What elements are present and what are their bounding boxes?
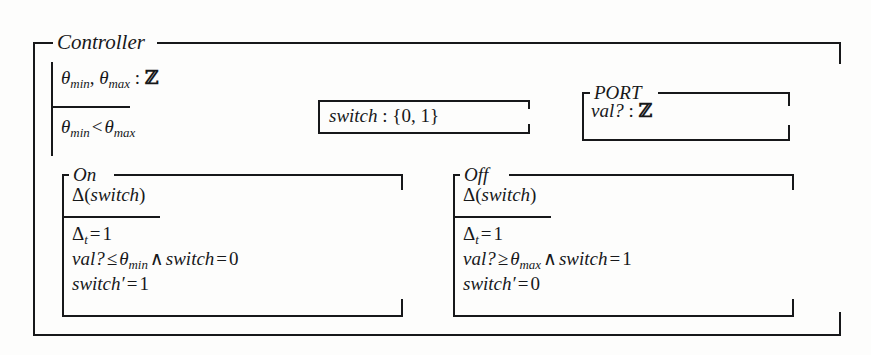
controller-left-rule [33, 42, 35, 336]
port-schema-box: PORT val? : ℤ [582, 83, 790, 141]
theta-min-symbol: θmin [61, 116, 90, 137]
on-divider-rule [62, 216, 160, 218]
switch-identifier: switch [166, 248, 215, 269]
on-schema-name: On [69, 165, 100, 184]
port-left-rule [582, 92, 584, 141]
port-bottom-rule [582, 139, 790, 141]
controller-schema-name: Controller [53, 32, 149, 53]
integers-symbol: ℤ [145, 66, 159, 88]
controller-predicate-0: θmin<θmax [61, 117, 135, 140]
theta-min-symbol: θmin [119, 248, 148, 269]
delta-symbol: Δ [463, 184, 475, 205]
on-schema-box: On Δ(switch) Δt=1 val?≤θmin∧switch=0 swi… [62, 166, 403, 318]
delta-symbol: Δ [72, 184, 84, 205]
controller-bottom-rule [33, 334, 841, 336]
off-top-rule-right [509, 174, 794, 176]
controller-schema-box: Controller θmin, θmax : ℤ θmin<θmax swit… [33, 28, 841, 336]
switch-axiomatic-box: switch : {0, 1} [318, 100, 530, 134]
logical-and-icon: ∧ [541, 248, 559, 269]
switch-box-right-stub-bottom [528, 124, 530, 134]
off-schema-name: Off [460, 165, 492, 184]
on-predicate-2: switch′=1 [72, 274, 149, 293]
theta-max-symbol: θmax [510, 248, 541, 269]
off-right-stub-bottom [792, 299, 794, 317]
switch-identifier: switch [559, 248, 608, 269]
val-identifier: val? [72, 248, 105, 269]
on-predicate-0: Δt=1 [72, 224, 112, 247]
controller-top-rule-right [157, 42, 841, 44]
on-top-rule-right [114, 174, 403, 176]
switch-prime-identifier: switch′ [72, 273, 125, 294]
switch-declaration: switch : {0, 1} [329, 106, 439, 125]
logical-and-icon: ∧ [148, 248, 166, 269]
off-predicate-1: val?≥θmax∧switch=1 [463, 249, 632, 272]
off-divider-rule [453, 216, 551, 218]
on-declaration-0: Δ(switch) [72, 185, 145, 204]
greater-equal-icon: ≥ [496, 248, 510, 269]
less-equal-icon: ≤ [105, 248, 119, 269]
off-predicate-0: Δt=1 [463, 224, 503, 247]
on-left-rule [62, 174, 64, 317]
off-right-stub-top [792, 174, 794, 190]
theta-max-symbol: θmax [104, 116, 135, 137]
switch-box-left-rule [318, 100, 320, 134]
integers-symbol: ℤ [639, 99, 653, 121]
switch-identifier: switch [329, 105, 378, 126]
val-identifier: val? [463, 248, 496, 269]
controller-inner-divider [51, 106, 130, 108]
switch-box-right-stub-top [528, 100, 530, 109]
switch-box-bottom-rule [318, 132, 530, 134]
val-identifier: val? [591, 100, 624, 121]
switch-prime-identifier: switch′ [463, 273, 516, 294]
off-declaration-0: Δ(switch) [463, 185, 536, 204]
off-bottom-rule [453, 315, 794, 317]
switch-identifier: switch [482, 184, 531, 205]
off-left-rule [453, 174, 455, 317]
figure-canvas: Controller θmin, θmax : ℤ θmin<θmax swit… [0, 0, 871, 355]
port-right-stub-bottom [788, 125, 790, 141]
port-declaration-0: val? : ℤ [591, 101, 652, 120]
controller-right-stub-bottom [839, 312, 841, 336]
off-schema-box: Off Δ(switch) Δt=1 val?≥θmax∧switch=1 sw… [453, 166, 794, 318]
delta-symbol: Δ [463, 223, 475, 244]
on-bottom-rule [62, 315, 403, 317]
controller-top-rule-left [33, 42, 55, 44]
switch-identifier: switch [91, 184, 140, 205]
controller-declaration-0: θmin, θmax : ℤ [61, 68, 159, 91]
controller-right-stub-top [839, 42, 841, 64]
theta-max-symbol: θmax [99, 67, 130, 88]
delta-symbol: Δ [72, 223, 84, 244]
on-right-stub-top [401, 174, 403, 190]
port-right-stub-top [788, 92, 790, 106]
off-predicate-2: switch′=0 [463, 274, 540, 293]
theta-min-symbol: θmin [61, 67, 90, 88]
switch-value-set: {0, 1} [392, 105, 439, 126]
on-predicate-1: val?≤θmin∧switch=0 [72, 249, 239, 272]
switch-box-top-rule [318, 100, 530, 102]
less-than-icon: < [90, 116, 105, 137]
controller-inner-left-rule [51, 62, 53, 156]
on-right-stub-bottom [401, 299, 403, 317]
port-top-rule-right [658, 92, 790, 94]
